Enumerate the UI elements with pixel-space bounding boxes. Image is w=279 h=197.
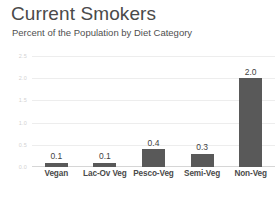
bar-group: 0.1 [81,56,129,167]
y-axis-tick-label: 2.0 [19,75,27,81]
bar-value-label: 2.0 [245,68,257,77]
x-axis-category-label: Lac-Ov Veg [81,169,129,178]
y-axis: 2.52.01.51.00.50.0 [0,56,32,167]
bar-group: 0.3 [178,56,226,167]
bar-value-label: 0.4 [148,139,160,148]
y-axis-tick-label: 1.0 [19,120,27,126]
bar-group: 0.1 [32,56,80,167]
chart-subtitle: Percent of the Population by Diet Catego… [12,27,192,38]
bar-value-label: 0.1 [99,152,111,161]
bar-group: 0.4 [129,56,177,167]
x-axis-category-label: Vegan [32,169,80,178]
chart-title: Current Smokers [11,3,156,25]
x-axis: VeganLac-Ov VegPesco-VegSemi-VegNon-Veg [32,169,275,178]
chart-card: Current Smokers Percent of the Populatio… [0,0,279,197]
bar[interactable] [93,163,116,167]
x-axis-category-label: Non-Veg [227,169,275,178]
bar-series: 0.10.10.40.32.0 [32,56,275,167]
bar[interactable] [239,78,262,167]
x-axis-category-label: Semi-Veg [178,169,226,178]
y-axis-tick-label: 0.5 [19,142,27,148]
x-axis-category-label: Pesco-Veg [129,169,177,178]
bar-value-label: 0.1 [50,152,62,161]
bar[interactable] [142,149,165,167]
bar[interactable] [191,154,214,167]
y-axis-tick-label: 0.0 [19,164,27,170]
y-axis-tick-label: 2.5 [19,53,27,59]
bar-group: 2.0 [227,56,275,167]
y-axis-tick-label: 1.5 [19,97,27,103]
bar[interactable] [45,163,68,167]
bar-value-label: 0.3 [196,143,208,152]
